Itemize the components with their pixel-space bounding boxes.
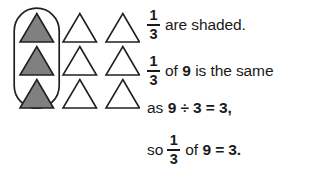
fraction-numerator: 1 [149,8,159,24]
shaded-triangle [20,80,54,109]
fraction-denominator: 3 [149,72,159,88]
unshaded-triangle [63,14,97,43]
explanation-text-block: 1 3 are shaded. 1 3 of 9 is the same as … [147,0,317,176]
unshaded-triangle [106,80,140,109]
line-2-of-word: of [165,62,178,80]
unshaded-triangle [106,14,140,43]
fraction-one-third: 1 3 [147,54,160,87]
fraction-numerator: 1 [169,133,179,149]
triangle-array-svg [8,4,140,114]
line-3-as-word: as [147,99,163,117]
fraction-of-a-set-figure: 1 3 are shaded. 1 3 of 9 is the same as … [0,0,317,176]
unshaded-triangle [63,47,97,76]
explanation-line-2: 1 3 of 9 is the same [147,54,273,87]
fraction-one-third: 1 3 [147,8,160,41]
shaded-triangle [20,47,54,76]
line-2-quantity: 9 [182,62,191,80]
line-4-equation: 9 = 3. [202,141,241,159]
fraction-numerator: 1 [149,54,159,70]
unshaded-triangle [63,80,97,109]
line-1-text: are shaded. [165,16,246,34]
shaded-triangle [20,14,54,43]
fraction-one-third: 1 3 [167,133,180,166]
explanation-line-4: so 1 3 of 9 = 3. [147,133,241,166]
fraction-denominator: 3 [169,151,179,167]
fraction-denominator: 3 [149,26,159,42]
triangle-array-diagram [8,4,140,114]
unshaded-triangle [106,47,140,76]
explanation-line-3: as 9 ÷ 3 = 3, [147,99,232,117]
line-4-of-word: of [185,141,198,159]
line-4-so-word: so [147,141,163,159]
line-3-equation: 9 ÷ 3 = 3, [168,99,232,117]
line-2-tail: is the same [195,62,273,80]
explanation-line-1: 1 3 are shaded. [147,8,246,41]
